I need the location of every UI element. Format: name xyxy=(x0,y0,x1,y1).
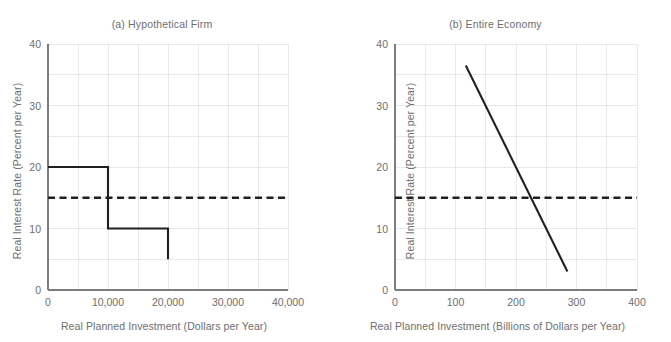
panel-a-y-axis-title: Real Interest Rate (Percent per Year) xyxy=(11,83,23,259)
x-tick-label: 30,000 xyxy=(212,296,244,308)
x-tick-label: 0 xyxy=(392,296,398,308)
x-tick-label: 0 xyxy=(45,296,51,308)
panel-a-x-axis-title: Real Planned Investment (Dollars per Yea… xyxy=(0,320,334,332)
x-tick-label: 100 xyxy=(447,296,465,308)
y-tick-label: 40 xyxy=(376,38,388,50)
x-tick-label: 10,000 xyxy=(92,296,124,308)
panel-b-x-axis-title: Real Planned Investment (Billions of Dol… xyxy=(332,320,663,332)
x-tick-label: 20,000 xyxy=(152,296,184,308)
investment-demand-curve xyxy=(466,66,568,272)
x-tick-label: 40,000 xyxy=(272,296,304,308)
y-tick-label: 40 xyxy=(29,38,41,50)
panel-b-plot: 40 30 20 10 0 0 100 200 300 400 xyxy=(340,0,671,342)
panel-a-plot: 40 30 20 10 0 0 10,000 20,000 30,000 40,… xyxy=(0,0,340,342)
y-tick-label: 20 xyxy=(376,161,388,173)
y-tick-label: 0 xyxy=(382,284,388,296)
y-tick-label: 10 xyxy=(376,223,388,235)
x-tick-label: 200 xyxy=(507,296,525,308)
panel-b-y-axis-title: Real Interest Rate (Percent per Year) xyxy=(404,83,416,259)
investment-demand-figure: (a) Hypothetical Firm xyxy=(0,0,671,342)
y-tick-label: 20 xyxy=(29,161,41,173)
y-tick-label: 30 xyxy=(29,100,41,112)
y-tick-label: 0 xyxy=(35,284,41,296)
y-tick-label: 10 xyxy=(29,223,41,235)
x-tick-label: 400 xyxy=(628,296,646,308)
x-tick-label: 300 xyxy=(568,296,586,308)
panel-hypothetical-firm: (a) Hypothetical Firm xyxy=(0,0,340,342)
y-tick-label: 30 xyxy=(376,100,388,112)
panel-entire-economy: (b) Entire Economy 40 xyxy=(340,0,671,342)
